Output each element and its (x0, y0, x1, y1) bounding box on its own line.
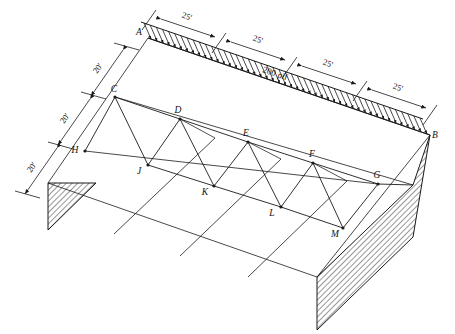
node-label-e: E (242, 128, 249, 138)
left-support-wall (48, 183, 96, 230)
node-label-b: B (432, 130, 438, 140)
node-markers (83, 95, 379, 229)
truss-joint-m (341, 226, 344, 229)
left-dimension-label: 20' (25, 160, 39, 174)
node-label-d: D (174, 105, 182, 115)
node-label-k: K (201, 187, 209, 197)
node-label-j: J (137, 166, 142, 176)
hatched-walls (48, 135, 430, 330)
truss-joint-c (113, 95, 116, 98)
top-dimension-chain (142, 10, 437, 125)
truss-joint-d (178, 117, 181, 120)
node-label-g: G (374, 170, 381, 180)
node-label-a: A (135, 27, 142, 37)
truss-joint-j (146, 163, 149, 166)
top-dimension-label: 25' (252, 33, 265, 46)
truss-web-members (85, 97, 413, 228)
truss-joint-g (376, 182, 379, 185)
node-label-m: M (330, 229, 340, 239)
top-dimension-label: 25' (181, 10, 194, 23)
truss-joint-l (279, 205, 282, 208)
truss-joint-e (246, 140, 249, 143)
truss-joint-f (311, 161, 314, 164)
node-label-l: L (268, 208, 274, 218)
node-labels: ABCDEFGHJKLM (71, 27, 439, 239)
left-dimension-label: 20' (91, 61, 105, 75)
truss-joint-h (83, 149, 86, 152)
top-dimension-label: 25' (322, 57, 335, 70)
truss-diagram-svg: 25'25'25'25' 20'20'20' 200 plf ABCDEFGHJ… (0, 0, 455, 334)
node-label-f: F (308, 149, 315, 159)
top-dimension-label: 25' (392, 81, 405, 94)
diagram-canvas: 25'25'25'25' 20'20'20' 200 plf ABCDEFGHJ… (0, 0, 455, 334)
node-label-c: C (111, 84, 118, 94)
truss-joint-k (212, 184, 215, 187)
load-magnitude-label: 200 plf (261, 64, 289, 82)
node-label-h: H (71, 145, 80, 155)
left-dimension-label: 20' (58, 111, 72, 125)
left-dimension-chain (15, 43, 139, 198)
